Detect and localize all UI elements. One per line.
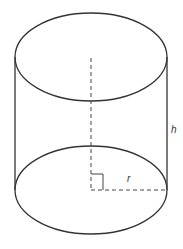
right-angle-marker <box>91 174 103 190</box>
radius-label: r <box>127 173 131 184</box>
cylinder-diagram: h r <box>0 0 183 249</box>
height-label: h <box>171 124 177 135</box>
